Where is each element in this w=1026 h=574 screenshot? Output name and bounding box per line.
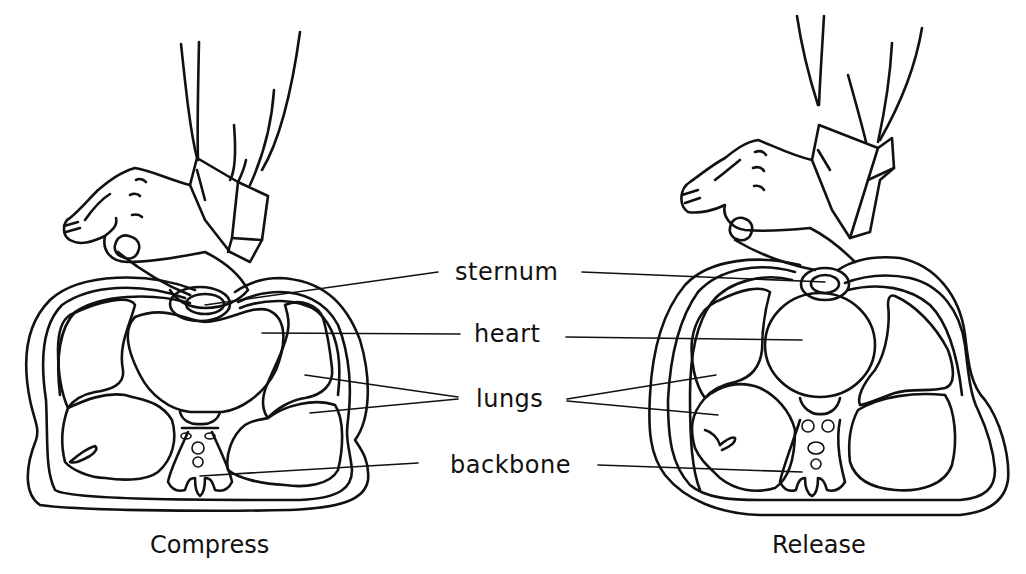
left-arm-icon [181,32,300,262]
right-arm-icon [797,16,922,238]
diagram-illustration [0,0,1026,574]
left-backbone-icon [168,412,232,496]
right-backbone-icon [780,398,845,496]
backbone-label: backbone [450,451,571,479]
cpr-diagram: sternum heart lungs backbone Compress Re… [0,0,1026,574]
heart-label: heart [474,320,540,348]
release-caption: Release [772,531,866,559]
compress-panel-illustration [26,32,368,511]
compress-caption: Compress [150,531,269,559]
right-chest-cross-section [649,257,1008,515]
release-panel-illustration [649,16,1008,515]
left-chest-cross-section [26,278,368,511]
lungs-label: lungs [476,385,543,413]
sternum-label: sternum [455,258,558,286]
